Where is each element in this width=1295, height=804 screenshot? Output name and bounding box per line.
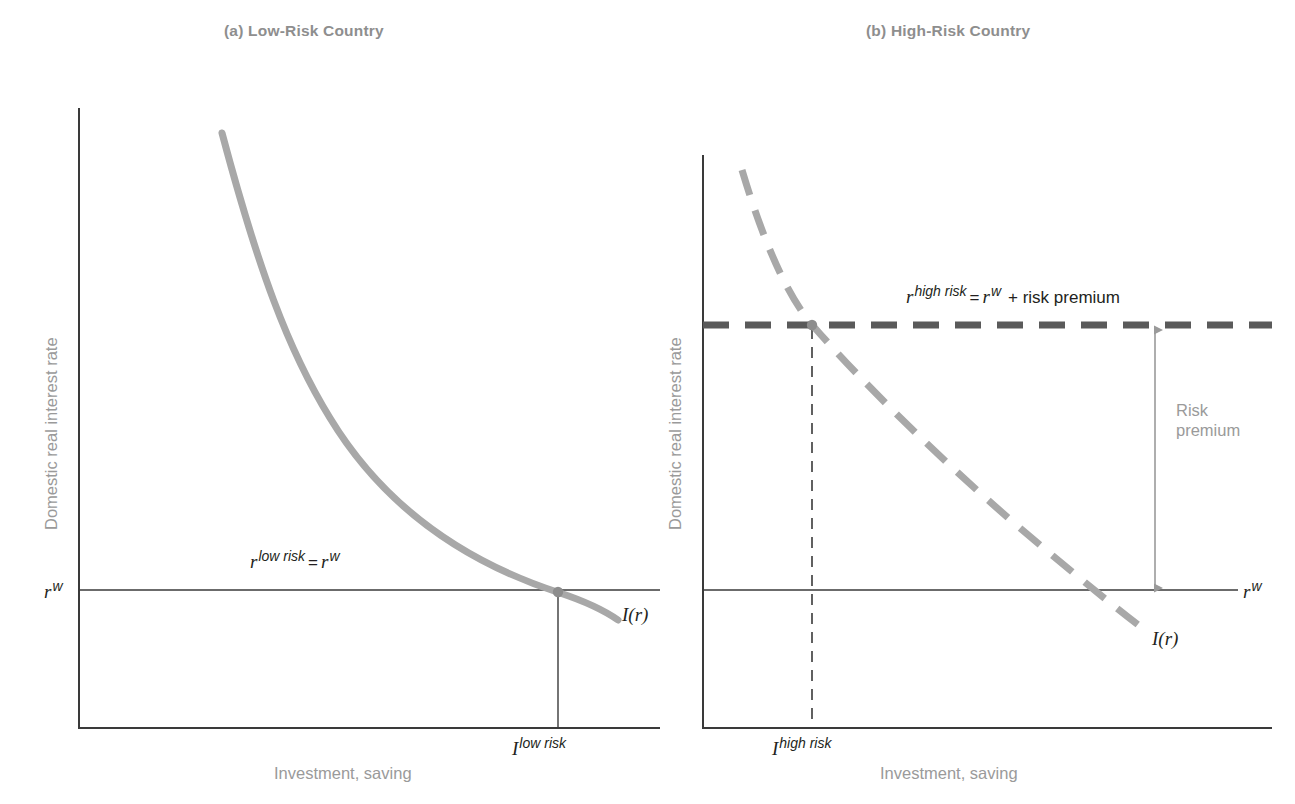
panel-b-quantity-var: I — [772, 738, 778, 759]
panel-b-graph — [702, 155, 1272, 729]
panel-b-rw-sup: w — [1251, 578, 1261, 594]
panel-b-quantity-label: Ihigh risk — [772, 735, 831, 760]
panel-a-curve-label-text: I(r) — [622, 604, 648, 625]
panel-b-world-rate-label: rw — [1243, 578, 1262, 603]
panel-a-graph — [78, 108, 660, 729]
panel-b-curve-label: I(r) — [1152, 628, 1178, 650]
panel-a-x-axis-label: Investment, saving — [274, 764, 412, 783]
risk-premium-line-1: Risk — [1176, 400, 1240, 420]
panel-a-eq-rhs-sup: w — [329, 548, 339, 564]
panel-b-eq-premium-term: + risk premium — [1008, 288, 1120, 307]
panel-a-eq-lhs-var: r — [250, 551, 257, 572]
panel-b-eq-rhs-var: r — [982, 286, 989, 307]
panel-a-eq-operator: = — [308, 553, 318, 572]
panel-b-rate-equation: rhigh risk=rw+ risk premium — [906, 283, 1120, 308]
panel-b-eq-lhs-var: r — [906, 286, 913, 307]
figure-container: (a) Low-Risk Country Investment, saving … — [0, 0, 1295, 804]
panel-b-eq-rhs-sup: w — [991, 283, 1001, 299]
panel-a-rate-equation: rlow risk=rw — [250, 548, 340, 573]
panel-b-curve-label-text: I(r) — [1152, 628, 1178, 649]
panel-a-rw-sup: w — [52, 578, 62, 594]
panel-b-risk-premium-annotation: Risk premium — [1176, 400, 1240, 440]
panel-b-title: (b) High-Risk Country — [866, 22, 1030, 40]
panel-b-quantity-sup: high risk — [779, 735, 831, 751]
panel-b-x-axis-label: Investment, saving — [880, 764, 1018, 783]
panel-b-eq-operator: = — [970, 288, 980, 307]
figure-svg — [0, 0, 1295, 804]
panel-a-rw-var: r — [44, 581, 51, 602]
panel-a-quantity-sup: low risk — [519, 735, 566, 751]
panel-a-y-axis-label: Domestic real interest rate — [42, 337, 61, 530]
panel-a-investment-curve — [222, 133, 618, 620]
panel-a-quantity-var: I — [512, 738, 518, 759]
panel-b-y-axis-label: Domestic real interest rate — [666, 337, 685, 530]
panel-a-curve-label: I(r) — [622, 604, 648, 626]
panel-a-eq-rhs-var: r — [321, 551, 328, 572]
panel-b-eq-lhs-sup: high risk — [914, 283, 966, 299]
panel-b-equilibrium-point — [807, 320, 817, 330]
panel-a-quantity-label: Ilow risk — [512, 735, 566, 760]
panel-a-eq-lhs-sup: low risk — [258, 548, 305, 564]
panel-a-title: (a) Low-Risk Country — [224, 22, 384, 40]
risk-premium-line-2: premium — [1176, 420, 1240, 440]
panel-a-world-rate-tick-label: rw — [44, 578, 63, 603]
panel-b-rw-var: r — [1243, 581, 1250, 602]
panel-a-equilibrium-point — [553, 587, 563, 597]
panel-b-investment-curve — [742, 170, 1145, 630]
